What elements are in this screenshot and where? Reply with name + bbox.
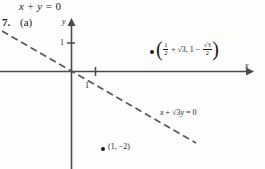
upper-point-label: (12 + √3, 1 − √32)	[156, 38, 219, 61]
fraction-one-half: 12	[163, 42, 168, 57]
lower-point-marker	[101, 147, 105, 151]
label-radical-3: √3	[177, 45, 185, 54]
y-axis-arrow	[68, 18, 76, 26]
close-paren: )	[212, 38, 219, 60]
math-figure: x + y = 0 7. (a) y x 1 1 (12 + √3, 1 − √…	[0, 0, 265, 169]
y-axis-label: y	[62, 18, 66, 26]
x-axis-label: x	[245, 62, 249, 70]
coordinate-plane	[0, 0, 265, 169]
x-axis-tick-label: 1	[85, 82, 89, 90]
fraction-radical3-over-2: √32	[203, 42, 212, 57]
line-eq-rhs: 0	[193, 108, 197, 117]
lower-point-label: (1, −2)	[108, 143, 130, 151]
upper-point-marker	[150, 50, 154, 54]
line-equation-label: x + √3y = 0	[160, 109, 197, 117]
y-axis-tick-label: 1	[60, 39, 64, 47]
open-paren: (	[156, 38, 163, 60]
